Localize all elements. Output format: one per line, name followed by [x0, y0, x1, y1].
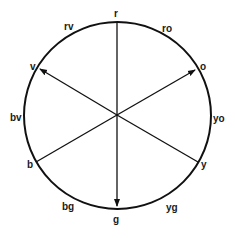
label-v: v [30, 61, 36, 72]
spoke-b [36, 115, 117, 162]
spoke-y [117, 115, 198, 162]
label-rv: rv [64, 21, 74, 32]
label-ro: ro [162, 23, 172, 34]
label-g: g [113, 214, 119, 225]
label-bv: bv [10, 112, 22, 123]
color-wheel-diagram: r rv ro v o bv yo b y bg yg g [0, 0, 235, 238]
spoke-o-arrow [117, 70, 195, 115]
label-r: r [114, 8, 118, 19]
label-y: y [201, 159, 207, 170]
label-bg: bg [62, 201, 74, 212]
label-yo: yo [213, 113, 225, 124]
label-b: b [27, 159, 33, 170]
label-yg: yg [166, 202, 178, 213]
label-o: o [200, 61, 206, 72]
spoke-v-arrow [40, 69, 117, 115]
